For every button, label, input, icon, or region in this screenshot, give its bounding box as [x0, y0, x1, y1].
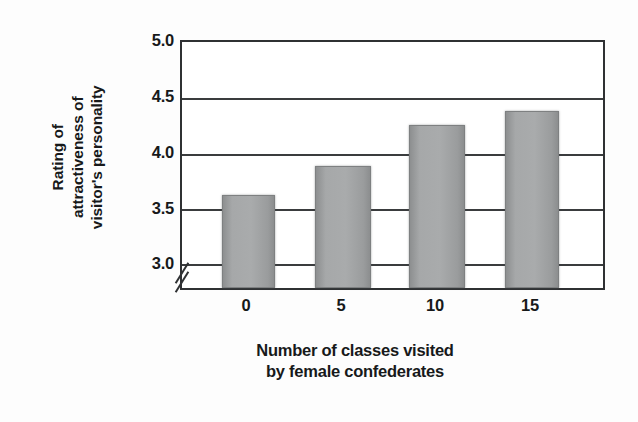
y-axis-title: Rating of attractiveness of visitor's pe… [22, 22, 132, 292]
bar-chart-figure: Rating of attractiveness of visitor's pe… [0, 0, 638, 422]
plot-area [180, 40, 605, 290]
y-tick-label-4-0: 4.0 [128, 143, 174, 162]
x-axis-title: Number of classes visited by female conf… [120, 340, 590, 383]
x-axis-title-line-1: Number of classes visited [120, 340, 590, 361]
y-axis-title-line-2: attractiveness of [67, 85, 87, 229]
y-axis-title-line-3: visitor's personality [87, 85, 107, 229]
x-tick-label-10: 10 [426, 296, 444, 315]
bar-category-0[interactable] [222, 195, 275, 288]
y-tick-label-3-5: 3.5 [128, 199, 174, 218]
y-tick-label-5-0: 5.0 [128, 31, 174, 50]
x-axis-tick-labels: 0 5 10 15 [180, 296, 605, 326]
bar-category-5[interactable] [315, 166, 371, 288]
y-tick-label-4-5: 4.5 [128, 87, 174, 106]
x-axis-title-line-2: by female confederates [120, 361, 590, 382]
x-tick-label-5: 5 [337, 296, 346, 315]
gridline-4-5 [182, 98, 603, 100]
bar-category-15[interactable] [505, 111, 559, 288]
y-axis-break-icon [169, 262, 195, 292]
bar-category-10[interactable] [409, 125, 465, 288]
y-tick-label-3-0: 3.0 [128, 254, 174, 273]
x-tick-label-0: 0 [242, 296, 251, 315]
y-axis-title-line-1: Rating of [48, 85, 68, 229]
x-tick-label-15: 15 [521, 296, 539, 315]
